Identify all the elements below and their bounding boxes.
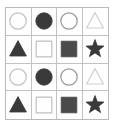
circle-filled-icon [32, 65, 56, 89]
grid-cell-r2-c2 [32, 36, 58, 64]
star-filled-icon [83, 37, 107, 61]
circle-ring-icon [57, 9, 81, 33]
square-outline-icon [32, 37, 56, 61]
triangle-filled-icon [6, 37, 30, 61]
grid-cell-r1-c1 [6, 8, 32, 36]
grid-cell-r1-c4 [83, 8, 109, 36]
triangle-outline-icon [83, 9, 107, 33]
square-outline-icon [32, 93, 56, 117]
circle-filled-icon [32, 9, 56, 33]
square-filled-icon [57, 37, 81, 61]
triangle-outline-icon [83, 65, 107, 89]
grid-cell-r1-c2 [32, 8, 58, 36]
grid-cell-r4-c4 [83, 91, 109, 119]
circle-outline-icon [6, 65, 30, 89]
grid-cell-r4-c2 [32, 91, 58, 119]
star-filled-icon [83, 93, 107, 117]
grid-cell-r2-c4 [83, 36, 109, 64]
circle-ring-icon [57, 65, 81, 89]
grid-cell-r4-c3 [57, 91, 83, 119]
grid-cell-r3-c3 [57, 64, 83, 92]
grid-cell-r3-c1 [6, 64, 32, 92]
shape-grid [5, 7, 109, 120]
grid-cell-r2-c3 [57, 36, 83, 64]
circle-outline-icon [6, 9, 30, 33]
grid-cell-r3-c2 [32, 64, 58, 92]
triangle-filled-icon [6, 93, 30, 117]
grid-cell-r2-c1 [6, 36, 32, 64]
grid-cell-r4-c1 [6, 91, 32, 119]
square-filled-icon [57, 93, 81, 117]
grid-cell-r3-c4 [83, 64, 109, 92]
grid-cell-r1-c3 [57, 8, 83, 36]
